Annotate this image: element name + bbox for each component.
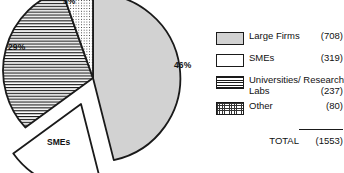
legend-label-large-firms: Large Firms	[249, 30, 300, 41]
legend-swatch-smes	[216, 54, 244, 67]
legend: Large Firms (708) SMEs (319) Universitie…	[216, 30, 343, 148]
pie-label-large-firms-percent: 46%	[174, 60, 191, 70]
legend-row-large-firms: Large Firms (708)	[216, 30, 343, 52]
legend-row-other: Other (80)	[216, 100, 343, 122]
legend-count-large-firms: (708)	[321, 30, 343, 41]
legend-total-count: (1553)	[316, 135, 343, 146]
pie-label-smes: SMEs	[47, 137, 70, 147]
legend-total-row: TOTAL (1553)	[216, 128, 343, 148]
legend-count-universities: (237)	[321, 85, 343, 96]
pie-chart-svg	[0, 0, 210, 173]
legend-swatch-other	[216, 102, 244, 115]
pie-label-universities-percent: 29%	[8, 42, 25, 52]
legend-label-universities-line1: Universities/ Research	[249, 74, 344, 85]
pie-slice-large-firms	[93, 0, 180, 160]
legend-row-smes: SMEs (319)	[216, 52, 343, 74]
legend-swatch-large-firms	[216, 32, 244, 45]
legend-count-other: (80)	[326, 100, 343, 111]
legend-label-smes: SMEs	[249, 52, 274, 63]
pie-label-other-percent: 5%	[63, 0, 76, 6]
legend-row-universities: Universities/ Research Labs (237)	[216, 74, 343, 100]
legend-count-smes: (319)	[321, 52, 343, 63]
legend-total-label: TOTAL	[269, 135, 299, 146]
legend-label-universities-line2: Labs	[249, 85, 270, 96]
legend-swatch-universities	[216, 76, 244, 89]
pie-chart-area: 46% 29% 5% SMEs	[0, 0, 210, 173]
legend-total-rule	[299, 129, 343, 130]
legend-label-other: Other	[249, 100, 273, 111]
